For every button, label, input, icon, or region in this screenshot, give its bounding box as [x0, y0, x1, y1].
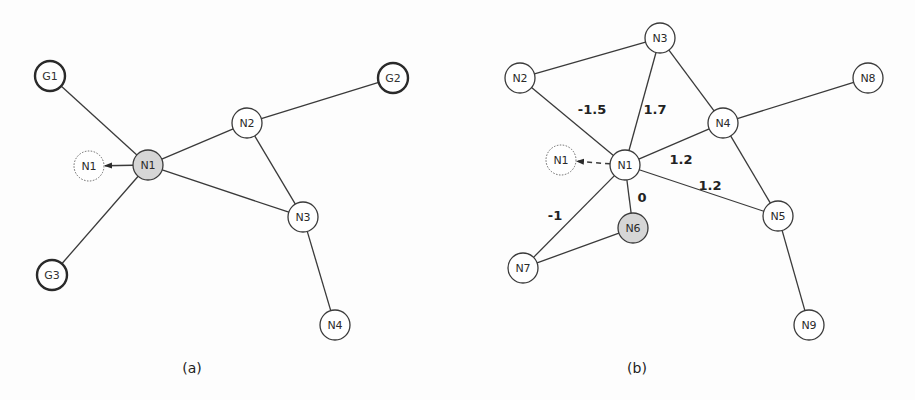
edge-weight-label: 1.2: [698, 178, 721, 193]
edge-n1-n6: [627, 180, 631, 213]
node-n6: N6: [618, 213, 648, 243]
edge-n3-n4: [307, 231, 330, 310]
edge-n2-n3: [534, 42, 645, 74]
node-label: N3: [295, 211, 310, 224]
edge-weight-label: -1: [548, 208, 562, 223]
node-label: N1: [140, 159, 155, 172]
node-n1: N1: [133, 150, 163, 180]
edge-n2-g2: [261, 82, 378, 118]
node-n3: N3: [645, 23, 675, 53]
edge-weight-label: 0: [637, 190, 646, 205]
edge-n4-n8: [737, 82, 853, 118]
edge-n3-n4: [669, 50, 714, 111]
node-n1ghost: N1: [546, 145, 576, 175]
node-label: N9: [801, 319, 816, 332]
node-label: N5: [770, 210, 785, 223]
node-label: N7: [515, 262, 530, 275]
edge-g3-n1: [62, 176, 138, 263]
node-g1: G1: [35, 61, 65, 91]
node-n8: N8: [853, 63, 883, 93]
node-label: N2: [239, 117, 254, 130]
node-n9: N9: [794, 310, 824, 340]
edge-n1-n3: [162, 170, 289, 212]
edge-weight-label: 1.2: [669, 152, 692, 167]
node-n2: N2: [505, 63, 535, 93]
node-g3: G3: [37, 260, 67, 290]
node-label: N6: [625, 222, 640, 235]
edge-n1-n2: [162, 129, 233, 159]
node-n3: N3: [288, 202, 318, 232]
edge-g1-n1: [61, 86, 137, 155]
edge-n2-n3: [255, 136, 296, 204]
node-n2: N2: [232, 108, 262, 138]
node-n1: N1: [610, 150, 640, 180]
edge-weight-label: 1.7: [643, 102, 666, 117]
node-label: N1: [617, 159, 632, 172]
node-label: N3: [652, 32, 667, 45]
edge-n2-n1: [532, 88, 614, 156]
diagram-figure: G1G2G3N1N1N2N3N4(a) N1N1N2N3N4N5N6N7N8N9…: [0, 0, 915, 400]
node-label: N4: [715, 117, 730, 130]
node-n7: N7: [508, 253, 538, 283]
node-n1ghost: N1: [74, 151, 104, 181]
edge-weight-label: -1.5: [578, 102, 606, 117]
edge-n1-n7: [534, 176, 615, 258]
node-label: N8: [860, 72, 875, 85]
graph-canvas: G1G2G3N1N1N2N3N4(a) N1N1N2N3N4N5N6N7N8N9…: [0, 0, 915, 400]
edge-n6-n7: [537, 233, 619, 263]
node-label: G2: [385, 72, 401, 85]
panel-caption: (b): [627, 360, 647, 376]
node-n4: N4: [708, 108, 738, 138]
node-label: G1: [42, 70, 58, 83]
node-label: N2: [512, 72, 527, 85]
node-n5: N5: [763, 201, 793, 231]
node-n4: N4: [320, 310, 350, 340]
node-label: N4: [327, 319, 342, 332]
panel-a: G1G2G3N1N1N2N3N4(a): [35, 61, 408, 376]
node-label: N1: [553, 154, 568, 167]
edge-n5-n9: [782, 230, 805, 310]
node-label: G3: [44, 269, 60, 282]
node-g2: G2: [378, 63, 408, 93]
edge-n4-n5: [731, 136, 771, 203]
panel-caption: (a): [182, 360, 202, 376]
node-label: N1: [81, 160, 96, 173]
move-arrow-icon: [577, 161, 610, 164]
panel-b: N1N1N2N3N4N5N6N7N8N9-1.51.71.21.20-1(b): [505, 23, 883, 376]
